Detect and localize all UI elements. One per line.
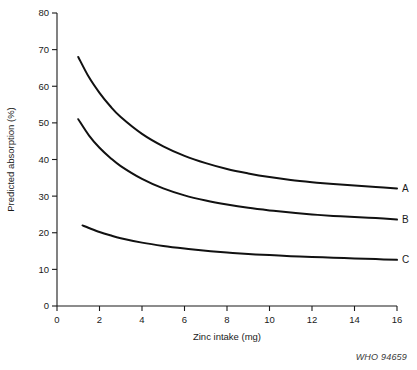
- x-tick-label: 4: [139, 314, 144, 325]
- who-figure-credit: WHO 94659: [356, 352, 407, 362]
- x-tick-label: 12: [307, 314, 318, 325]
- x-tick-label: 8: [224, 314, 229, 325]
- y-axis-title: Predicted absorption (%): [5, 107, 16, 212]
- chart-canvas: 01020304050607080 0246810121416 ABC Zinc…: [0, 0, 417, 370]
- curve-label-a: A: [402, 183, 409, 194]
- x-tick-label: 16: [392, 314, 403, 325]
- y-tick-label: 0: [44, 300, 49, 311]
- x-axis: 0246810121416: [54, 306, 402, 325]
- curve-label-c: C: [402, 254, 409, 265]
- curve-c: [83, 225, 398, 259]
- curve-labels-layer: ABC: [402, 183, 409, 265]
- curve-b: [78, 119, 397, 219]
- x-tick-label: 0: [54, 314, 59, 325]
- x-tick-label: 10: [264, 314, 275, 325]
- curves-layer: [78, 57, 397, 260]
- y-tick-label: 50: [38, 117, 49, 128]
- y-tick-label: 60: [38, 81, 49, 92]
- y-tick-label: 70: [38, 44, 49, 55]
- zinc-absorption-chart: 01020304050607080 0246810121416 ABC Zinc…: [0, 0, 417, 370]
- y-axis: 01020304050607080: [38, 7, 57, 311]
- y-tick-label: 40: [38, 154, 49, 165]
- x-axis-title: Zinc intake (mg): [193, 331, 261, 342]
- y-tick-label: 20: [38, 227, 49, 238]
- y-tick-label: 80: [38, 7, 49, 18]
- x-tick-label: 14: [349, 314, 360, 325]
- y-tick-label: 10: [38, 264, 49, 275]
- x-tick-label: 2: [97, 314, 102, 325]
- x-tick-label: 6: [182, 314, 187, 325]
- curve-label-b: B: [402, 214, 409, 225]
- y-tick-label: 30: [38, 191, 49, 202]
